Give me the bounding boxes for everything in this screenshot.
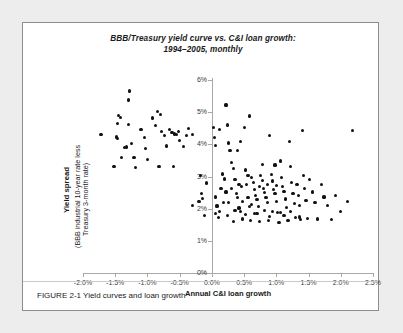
scatter-point bbox=[294, 216, 297, 219]
scatter-point bbox=[160, 130, 163, 133]
scatter-point bbox=[261, 163, 264, 166]
y-axis-title-main: Yield spread bbox=[62, 167, 71, 213]
scatter-point bbox=[212, 126, 215, 129]
scatter-point bbox=[241, 200, 244, 203]
scatter-point bbox=[246, 196, 249, 199]
scatter-point bbox=[203, 214, 206, 217]
scatter-point bbox=[151, 116, 154, 119]
scatter-point bbox=[214, 144, 217, 147]
scatter-point bbox=[239, 140, 242, 143]
scatter-point bbox=[289, 210, 292, 213]
scatter-point bbox=[178, 139, 181, 142]
scatter-point bbox=[236, 196, 239, 199]
scatter-point bbox=[275, 184, 278, 187]
scatter-point bbox=[258, 185, 261, 188]
scatter-point bbox=[163, 134, 166, 137]
scatter-point bbox=[213, 136, 216, 139]
scatter-point bbox=[252, 181, 255, 184]
scatter-point bbox=[222, 201, 225, 204]
scatter-point bbox=[214, 195, 217, 198]
scatter-point bbox=[230, 161, 233, 164]
scatter-point bbox=[286, 219, 289, 222]
scatter-point bbox=[254, 194, 257, 197]
scatter-point bbox=[306, 217, 309, 220]
scatter-point bbox=[130, 142, 133, 145]
scatter-point bbox=[262, 187, 265, 190]
scatter-point bbox=[116, 137, 119, 140]
scatter-point bbox=[291, 192, 294, 195]
chart-title-line1: BBB/Treasury yield curve vs. C&I loan gr… bbox=[110, 34, 295, 43]
scatter-point bbox=[244, 168, 247, 171]
scatter-point bbox=[334, 194, 337, 197]
scatter-point bbox=[175, 133, 178, 136]
scatter-point bbox=[215, 204, 218, 207]
scatter-point bbox=[228, 149, 231, 152]
scatter-point bbox=[316, 217, 319, 220]
scatter-point bbox=[232, 167, 235, 170]
scatter-point bbox=[191, 133, 194, 136]
x-tick bbox=[147, 273, 148, 277]
scatter-point bbox=[298, 204, 301, 207]
scatter-point bbox=[172, 165, 175, 168]
chart-title: BBB/Treasury yield curve vs. C&I loan gr… bbox=[83, 33, 323, 55]
scatter-point bbox=[339, 210, 342, 213]
scatter-point bbox=[249, 219, 252, 222]
scatter-point bbox=[246, 174, 249, 177]
scatter-point bbox=[313, 201, 316, 204]
scatter-point bbox=[326, 204, 329, 207]
scatter-point bbox=[311, 190, 314, 193]
scatter-point bbox=[302, 174, 305, 177]
scatter-point bbox=[128, 89, 131, 92]
scatter-point bbox=[224, 190, 227, 193]
scatter-point bbox=[241, 217, 244, 220]
scatter-point bbox=[146, 158, 149, 161]
scatter-point bbox=[268, 215, 271, 218]
x-tick bbox=[83, 273, 84, 277]
scatter-point bbox=[224, 103, 227, 106]
scatter-point bbox=[271, 179, 274, 182]
scatter-point bbox=[127, 98, 130, 101]
scatter-point bbox=[120, 156, 123, 159]
scatter-point bbox=[226, 123, 229, 126]
scatter-point bbox=[230, 187, 233, 190]
scatter-point bbox=[218, 210, 221, 213]
scatter-point bbox=[282, 190, 285, 193]
scatter-point bbox=[277, 221, 280, 224]
scatter-point bbox=[266, 201, 269, 204]
scatter-point bbox=[221, 172, 224, 175]
scatter-point bbox=[237, 206, 240, 209]
scatter-point bbox=[267, 219, 270, 222]
scatter-point bbox=[119, 116, 122, 119]
scatter-point bbox=[272, 188, 275, 191]
scatter-point bbox=[139, 128, 142, 131]
x-tick bbox=[373, 273, 374, 277]
scatter-point bbox=[237, 183, 240, 186]
scatter-point bbox=[266, 183, 269, 186]
scatter-point bbox=[185, 134, 188, 137]
scatter-point bbox=[255, 198, 258, 201]
scatter-point bbox=[112, 165, 115, 168]
scatter-point bbox=[250, 203, 253, 206]
scatter-point bbox=[295, 183, 298, 186]
scatter-point bbox=[244, 213, 247, 216]
scatter-point bbox=[232, 220, 235, 223]
scatter-point bbox=[346, 200, 349, 203]
scatter-point bbox=[99, 133, 102, 136]
y-tick bbox=[208, 273, 212, 274]
scatter-point bbox=[330, 218, 333, 221]
scatter-point bbox=[205, 181, 208, 184]
scatter-point bbox=[320, 183, 323, 186]
scatter-point bbox=[293, 202, 296, 205]
scatter-point bbox=[263, 209, 266, 212]
page-background: BBB/Treasury yield curve vs. C&I loan gr… bbox=[0, 0, 403, 333]
scatter-point bbox=[290, 181, 293, 184]
scatter-point bbox=[289, 165, 292, 168]
scatter-point bbox=[127, 123, 130, 126]
figure-card: BBB/Treasury yield curve vs. C&I loan gr… bbox=[22, 22, 379, 311]
scatter-point bbox=[226, 214, 229, 217]
scatter-point bbox=[159, 113, 162, 116]
scatter-point bbox=[227, 201, 230, 204]
scatter-point bbox=[250, 176, 253, 179]
scatter-point bbox=[288, 140, 291, 143]
scatter-point bbox=[303, 187, 306, 190]
